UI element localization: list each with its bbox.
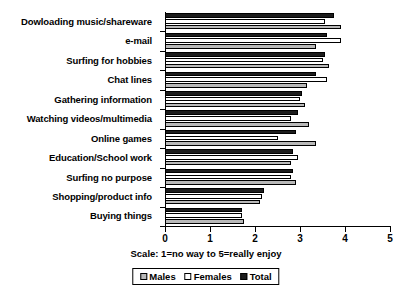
y-axis-tick — [160, 90, 165, 91]
x-axis-tick — [255, 227, 256, 232]
legend-label: Males — [149, 271, 175, 282]
bar-males — [165, 122, 309, 127]
bar-total — [165, 130, 296, 135]
category-label: Online games — [0, 129, 158, 148]
bar-total — [165, 188, 264, 193]
bar-total — [165, 149, 293, 154]
x-axis-title-text: Scale: 1=no way to 5=really enjoy — [130, 248, 281, 259]
category-label: Shopping/product info — [0, 187, 158, 206]
y-axis-tick — [160, 207, 165, 208]
category-label: Buying things — [0, 206, 158, 225]
category-label: Education/School work — [0, 148, 158, 167]
bar-group — [165, 90, 390, 109]
bar-females — [165, 175, 291, 180]
bar-group — [165, 187, 390, 206]
bar-males — [165, 83, 307, 88]
bar-females — [165, 136, 278, 141]
category-label: Dowloading music/shareware — [0, 12, 158, 31]
y-axis-tick — [160, 148, 165, 149]
bar-females — [165, 77, 327, 82]
bar-males — [165, 44, 316, 49]
legend-item[interactable]: Males — [140, 271, 175, 282]
bar-males — [165, 25, 341, 30]
bar-females — [165, 213, 242, 218]
category-label: Gathering information — [0, 90, 158, 109]
category-label: e-mail — [0, 31, 158, 50]
bar-total — [165, 72, 316, 77]
bar-total — [165, 208, 242, 213]
bar-total — [165, 33, 327, 38]
plot-area — [165, 12, 390, 226]
y-axis-tick — [160, 70, 165, 71]
x-axis-tick — [300, 227, 301, 232]
y-axis-tick — [160, 51, 165, 52]
x-axis-tick-label: 4 — [335, 233, 355, 244]
bar-total — [165, 169, 293, 174]
legend-item[interactable]: Females — [185, 271, 232, 282]
bar-group — [165, 51, 390, 70]
bar-group — [165, 109, 390, 128]
bar-females — [165, 19, 325, 24]
total-swatch — [241, 273, 248, 280]
x-axis-tick-label: 0 — [155, 233, 175, 244]
bar-group — [165, 70, 390, 89]
x-axis-tick — [210, 227, 211, 232]
legend-label: Total — [250, 271, 272, 282]
bar-males — [165, 219, 244, 224]
category-label: Chat lines — [0, 70, 158, 89]
legend-item[interactable]: Total — [241, 271, 272, 282]
males-swatch — [140, 273, 147, 280]
bar-males — [165, 161, 291, 166]
bar-females — [165, 97, 300, 102]
bar-total — [165, 110, 298, 115]
bar-group — [165, 12, 390, 31]
x-axis-title: Scale: 1=no way to 5=really enjoy — [0, 248, 412, 259]
y-axis-tick — [160, 129, 165, 130]
legend-label: Females — [194, 271, 232, 282]
x-axis-tick-label: 3 — [290, 233, 310, 244]
x-axis-line — [165, 226, 391, 227]
bar-group — [165, 129, 390, 148]
bar-chart: Dowloading music/sharewaree-mailSurfing … — [0, 0, 412, 299]
bar-females — [165, 38, 341, 43]
bar-males — [165, 200, 260, 205]
bar-group — [165, 148, 390, 167]
bar-group — [165, 168, 390, 187]
bar-females — [165, 58, 323, 63]
y-axis-tick — [160, 109, 165, 110]
x-axis-tick — [390, 227, 391, 232]
category-label: Watching videos/multimedia — [0, 109, 158, 128]
category-axis-labels: Dowloading music/sharewaree-mailSurfing … — [0, 12, 158, 226]
x-axis-tick-label: 2 — [245, 233, 265, 244]
x-axis-tick-label: 1 — [200, 233, 220, 244]
y-axis-tick — [160, 168, 165, 169]
bar-total — [165, 52, 325, 57]
bar-total — [165, 13, 334, 18]
x-axis-tick — [165, 227, 166, 232]
bar-males — [165, 64, 329, 69]
chart-legend: MalesFemalesTotal — [132, 268, 279, 285]
bar-total — [165, 91, 302, 96]
bar-females — [165, 155, 298, 160]
bar-females — [165, 194, 262, 199]
bar-males — [165, 180, 296, 185]
bar-females — [165, 116, 291, 121]
females-swatch — [185, 273, 192, 280]
bar-males — [165, 141, 316, 146]
bar-group — [165, 31, 390, 50]
x-axis-tick — [345, 227, 346, 232]
x-axis-tick-label: 5 — [380, 233, 400, 244]
bar-group — [165, 206, 390, 225]
bar-males — [165, 103, 305, 108]
category-label: Surfing for hobbies — [0, 51, 158, 70]
y-axis-tick — [160, 31, 165, 32]
category-label: Surfing no purpose — [0, 168, 158, 187]
y-axis-tick — [160, 187, 165, 188]
